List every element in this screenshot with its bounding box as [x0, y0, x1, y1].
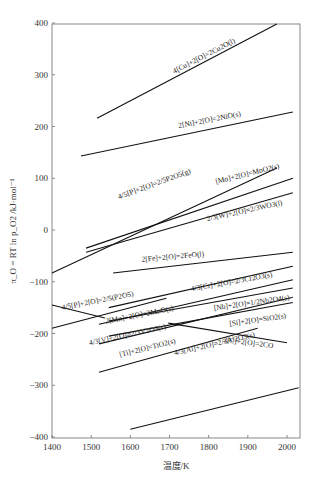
series-label: [Ti]+2[O]=TiO2(s) — [118, 336, 176, 359]
y-tick-label: 300 — [35, 70, 49, 80]
series-label: 2[Fe]+2[O]=2FeO(l) — [141, 249, 205, 263]
data-lines — [52, 24, 299, 429]
series-line — [86, 178, 293, 248]
x-tick-label: 2000 — [278, 442, 297, 452]
plot-border — [52, 24, 300, 438]
plot-frame — [52, 24, 300, 438]
y-tick-label: −300 — [29, 380, 48, 390]
series-label: [Si]+2[O]=SiO2(s) — [229, 311, 287, 328]
line-labels: 4[Cu]+2[O]=2Cu2O(l)2[Ni]+2[O]=2NiO(s)4/5… — [61, 36, 291, 359]
y-tick-label: 0 — [44, 225, 49, 235]
series-label: [Mo]+2[O]=MoO2(s) — [215, 161, 281, 186]
series-label: 4/5[P]+2[O]=2/5P2O5(g) — [117, 166, 193, 201]
x-axis-title: 温度/K — [163, 460, 191, 471]
x-tick-label: 1500 — [82, 442, 101, 452]
y-tick-label: 100 — [35, 173, 49, 183]
y-tick-label: 400 — [35, 18, 49, 28]
series-label: 4[Cu]+2[O]=2Cu2O(l) — [171, 36, 237, 76]
series-line — [97, 24, 277, 118]
series-label: 2[Ni]+2[O]=2NiO(s) — [178, 109, 242, 130]
y-tick-label: −400 — [29, 432, 48, 442]
series-label: 4/3[Cr]+2[O]=2/3Cr2O3(s) — [190, 270, 273, 293]
x-tick-label: 1400 — [43, 442, 62, 452]
ellingham-chart: 1400150016001700180019002000−400−300−200… — [0, 0, 314, 479]
x-tick-label: 1700 — [161, 442, 180, 452]
y-axis-title: π_O = RT ln p_O2 /kJ·mol⁻¹ — [8, 178, 18, 283]
x-tick-label: 1600 — [121, 442, 140, 452]
y-tick-label: 200 — [35, 122, 49, 132]
x-tick-label: 1800 — [200, 442, 219, 452]
series-label: 2/3[W]+2[O]=2/3WO3(l) — [206, 198, 284, 223]
y-tick-label: −100 — [29, 277, 48, 287]
series-line — [130, 388, 298, 429]
series-label: 4/5[P]+2[O]=2/5(P2O5) — [61, 289, 135, 312]
y-tick-label: −200 — [29, 329, 48, 339]
x-tick-label: 1900 — [239, 442, 258, 452]
